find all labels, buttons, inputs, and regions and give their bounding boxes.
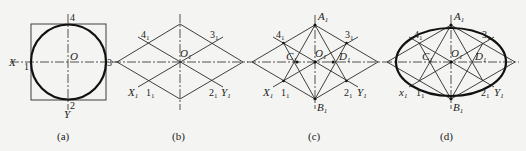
isometric-ellipse-construction-figure: 4 1 3 2 X Y O (a) 41 31 O1 X1 11 21 Y1 (… [0,0,526,151]
point-o1 [314,61,317,64]
label-o: O [70,50,78,62]
caption-b: (b) [172,130,185,143]
label-y1: Y1 [494,86,504,100]
label-x: X [8,56,17,68]
point-1-1 [282,80,285,83]
label-2-1: 21 [481,87,490,100]
label-x1: x1 [398,86,407,100]
panel-d: A1 B1 C1 D1 O1 41 31 x1 11 21 Y1 (d) [383,10,519,143]
label-y1: Y1 [221,86,231,100]
point-4-1 [282,42,285,45]
label-2: 2 [70,100,75,111]
caption-a: (a) [57,130,70,143]
label-1-1: 11 [146,87,155,100]
label-2-1: 21 [344,87,353,100]
caption-c: (c) [308,130,321,143]
panel-a: 4 1 3 2 X Y O (a) [8,12,118,143]
label-d1: D1 [338,50,350,64]
label-o1: O1 [315,47,326,61]
label-y1: Y1 [357,86,367,100]
label-c1: C1 [422,50,433,64]
point-2-1 [345,80,348,83]
point-3-1 [345,42,348,45]
label-a1: A1 [317,10,328,24]
label-c1: C1 [286,50,297,64]
panel-b: 41 31 O1 X1 11 21 Y1 (b) [112,14,248,143]
point-d1 [332,61,335,64]
label-o1: O1 [180,47,191,61]
label-3-1: 31 [482,29,491,42]
label-o1: O1 [451,47,462,61]
point-o1 [450,61,453,64]
label-2-1: 21 [209,87,218,100]
label-a1: A1 [453,10,464,24]
label-1: 1 [24,61,29,72]
label-b1: B1 [317,101,327,115]
label-3: 3 [107,57,112,68]
label-x1: X1 [262,86,273,100]
label-1-1: 11 [281,87,290,100]
panel-c: A1 B1 C1 D1 O1 41 31 X1 11 21 Y1 (c) [247,10,383,143]
label-3-1: 31 [210,29,219,42]
label-4: 4 [70,12,75,23]
label-4-1: 41 [414,29,423,42]
label-x1: X1 [127,86,138,100]
label-1-1: 11 [416,87,425,100]
point-a1 [450,24,453,27]
figure-svg: 4 1 3 2 X Y O (a) 41 31 O1 X1 11 21 Y1 (… [0,0,526,151]
label-b1: B1 [453,101,463,115]
label-3-1: 31 [345,29,354,42]
point-a1 [314,24,317,27]
caption-d: (d) [440,130,453,143]
label-d1: D1 [474,50,486,64]
